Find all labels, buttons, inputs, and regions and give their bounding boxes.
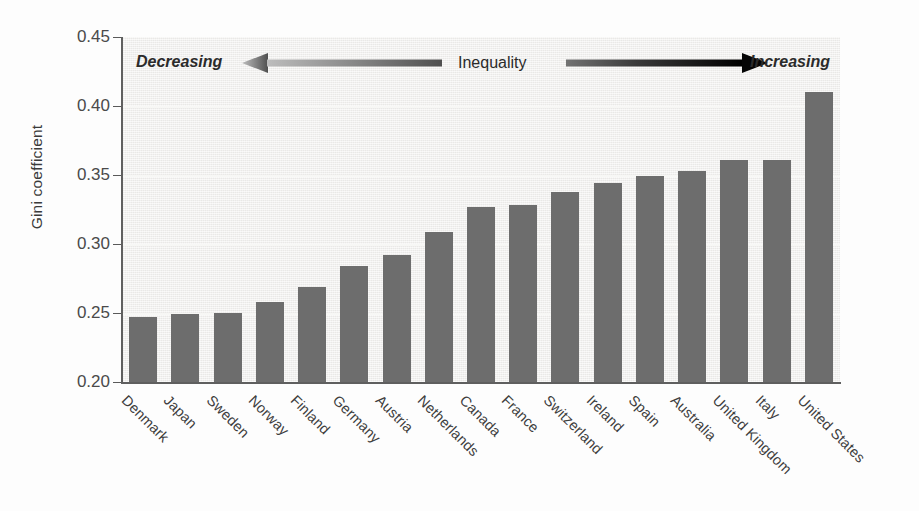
bar: [129, 317, 157, 382]
x-axis-tick-label: Japan: [161, 392, 201, 432]
bar: [298, 287, 326, 382]
x-axis-tick-label: Ireland: [583, 392, 626, 435]
x-axis-spine: [121, 382, 841, 384]
y-axis-tick-label: 0.30: [52, 235, 110, 252]
bar: [551, 192, 579, 382]
gridline: [122, 106, 840, 108]
y-axis-spine: [121, 37, 123, 383]
bar: [763, 160, 791, 382]
y-axis-tick-label: 0.45: [52, 28, 110, 45]
bar: [171, 314, 199, 382]
y-axis-title: Gini coefficient: [28, 77, 46, 277]
bar: [256, 302, 284, 382]
bar: [805, 92, 833, 382]
bar: [720, 160, 748, 382]
y-axis-tick-label: 0.40: [52, 97, 110, 114]
x-axis-tick-label: Italy: [752, 392, 782, 422]
x-axis-tick-label: United States: [795, 392, 869, 466]
x-axis-tick-label: Norway: [245, 392, 291, 438]
gini-coefficient-bar-chart: Gini coefficient 0.450.400.350.300.250.2…: [0, 0, 919, 511]
bar: [383, 255, 411, 382]
y-axis-tick-label: 0.35: [52, 166, 110, 183]
x-axis-tick-label: United Kingdom: [710, 392, 795, 477]
bar: [425, 232, 453, 382]
x-axis-tick-label: France: [499, 392, 543, 436]
x-axis-tick-label: Finland: [288, 392, 333, 437]
plot-area: [122, 37, 840, 382]
bar: [214, 313, 242, 382]
bar: [678, 171, 706, 382]
bar: [467, 207, 495, 382]
bar: [340, 266, 368, 382]
y-axis-tick-labels: 0.450.400.350.300.250.20: [52, 0, 110, 511]
x-axis-tick-label: Spain: [626, 392, 664, 430]
x-axis-tick-label: Sweden: [203, 392, 252, 441]
y-axis-tick-label: 0.25: [52, 304, 110, 321]
y-axis-tick-label: 0.20: [52, 373, 110, 390]
bar: [509, 205, 537, 382]
bar: [636, 176, 664, 382]
bar: [594, 183, 622, 382]
